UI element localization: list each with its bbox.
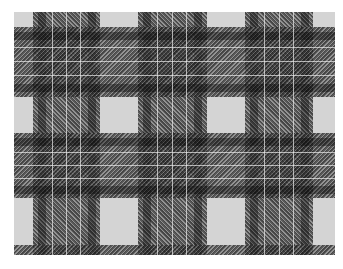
vertical-pinstripe: [172, 12, 173, 255]
vertical-pinstripe: [52, 12, 53, 255]
horizontal-pinstripe: [14, 165, 335, 166]
horizontal-pinstripe: [14, 152, 335, 153]
vertical-pinstripe: [264, 12, 265, 255]
tartan-fabric-image: [14, 12, 335, 255]
vertical-pinstripe: [186, 12, 187, 255]
pinstripes: [14, 12, 335, 255]
vertical-pinstripe: [157, 12, 158, 255]
vertical-pinstripe: [66, 12, 67, 255]
vertical-pinstripe: [279, 12, 280, 255]
horizontal-pinstripe: [14, 61, 335, 62]
horizontal-pinstripe: [14, 178, 335, 179]
vertical-pinstripe: [80, 12, 81, 255]
horizontal-pinstripe: [14, 75, 335, 76]
horizontal-pinstripe: [14, 47, 335, 48]
vertical-pinstripe: [293, 12, 294, 255]
